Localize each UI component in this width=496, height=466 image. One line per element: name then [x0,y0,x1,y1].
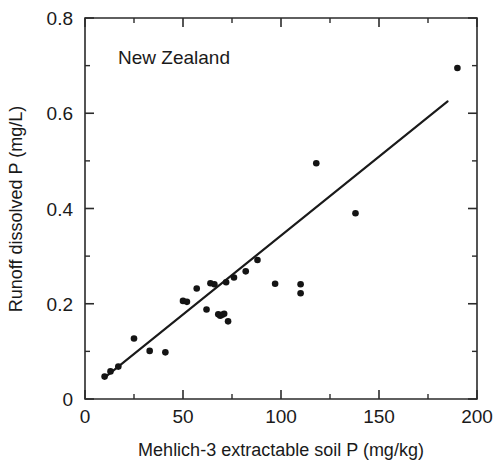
data-point [352,210,359,217]
y-axis-ticks [85,18,477,399]
data-point [297,281,304,288]
y-tick-label: 0.8 [47,8,73,29]
y-axis-tick-labels: 00.20.40.60.8 [47,8,74,410]
data-point [454,65,461,72]
data-point [115,363,122,370]
regression-line-path [105,101,448,377]
data-points [101,65,460,380]
data-point [146,348,153,355]
x-tick-label: 200 [461,406,493,427]
data-point [242,268,249,275]
data-point [254,257,261,264]
x-tick-label: 50 [172,406,193,427]
x-tick-label: 0 [80,406,91,427]
region-annotation: New Zealand [118,47,230,68]
data-point [162,349,169,356]
x-tick-label: 100 [265,406,297,427]
regression-line [105,101,448,377]
data-point [203,306,210,313]
data-point [193,285,200,292]
x-axis-title: Mehlich-3 extractable soil P (mg/kg) [138,440,424,460]
x-axis-tick-labels: 050100150200 [80,406,493,427]
data-point [272,280,279,287]
data-point [101,373,108,380]
data-point [297,290,304,297]
data-point [184,299,191,306]
y-axis-title: Runoff dissolved P (mg/L) [6,106,26,312]
data-point [211,281,218,288]
data-point [231,274,238,281]
y-tick-label: 0.6 [47,103,73,124]
y-tick-label: 0 [62,389,73,410]
data-point [225,318,232,325]
chart-canvas: 050100150200 00.20.40.60.8 New Zealand M… [0,0,496,466]
data-point [131,335,138,342]
x-tick-label: 150 [363,406,395,427]
data-point [107,368,114,375]
plot-frame [85,18,477,399]
x-axis-ticks [85,18,477,399]
y-tick-label: 0.2 [47,294,73,315]
data-point [221,310,228,317]
data-point [223,279,230,286]
y-tick-label: 0.4 [47,199,74,220]
data-point [313,160,320,167]
scatter-plot-figure: 050100150200 00.20.40.60.8 New Zealand M… [0,0,496,466]
